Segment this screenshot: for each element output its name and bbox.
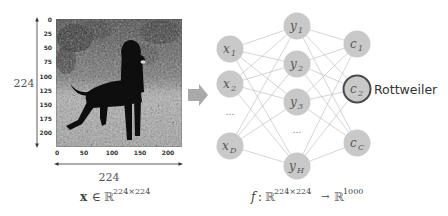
y-tick: 200: [39, 129, 52, 136]
y-axis-ticks: 0 25 50 75 100 125 150 175 200: [39, 16, 52, 136]
width-dimension-arrow: [54, 162, 183, 166]
codomain-dims: 1000: [343, 187, 363, 196]
maps-to-arrow: →: [321, 191, 330, 202]
svg-text:1: 1: [358, 44, 363, 53]
svg-text:D: D: [229, 146, 237, 155]
y-tick: 150: [39, 101, 52, 108]
svg-text:y: y: [289, 19, 297, 33]
x-tick: 0: [55, 149, 59, 156]
input-ellipsis: …: [226, 107, 235, 117]
input-variable: x: [80, 190, 88, 204]
svg-text:x: x: [223, 42, 230, 56]
output-node-cC: c C: [344, 130, 371, 157]
y-tick: 50: [44, 44, 52, 51]
hidden-node-y1: y 1: [284, 13, 311, 40]
svg-text:C: C: [358, 143, 364, 152]
svg-text:2: 2: [230, 84, 236, 93]
input-image-panel: 224 0 25 50 75 100 125 150 175 200: [14, 16, 184, 204]
input-node-x1: x 1: [217, 36, 244, 63]
x-axis-ticks: 0 50 100 150 200: [55, 149, 174, 156]
input-node-x2: x 2: [217, 71, 244, 98]
x-tick: 150: [134, 149, 147, 156]
output-node-c1: c 1: [344, 31, 371, 58]
neural-network-diagram: 224 0 25 50 75 100 125 150 175 200: [0, 0, 448, 216]
function-formula: f : ℝ 224×224 → ℝ 1000: [250, 187, 363, 204]
svg-text:c: c: [350, 82, 357, 96]
svg-text:x: x: [223, 77, 230, 91]
domain-dims: 224×224: [274, 187, 311, 196]
input-formula: x ∈ ℝ 224×224: [80, 187, 150, 204]
input-node-xD: x D: [217, 133, 244, 160]
x-tick: 100: [106, 149, 119, 156]
hidden-node-y3: y 3: [284, 89, 311, 116]
svg-text:H: H: [296, 166, 305, 175]
element-of-symbol: ∈: [92, 190, 101, 204]
hidden-node-y2: y 2: [284, 51, 311, 78]
input-layer: x 1 x 2 … x D: [217, 36, 244, 160]
y-tick: 25: [44, 30, 52, 37]
colon: :: [258, 190, 262, 204]
input-dims: 224×224: [113, 187, 150, 196]
hidden-ellipsis: …: [293, 125, 302, 135]
height-dimension-arrow: [35, 17, 39, 148]
hidden-node-yH: y H: [284, 153, 311, 180]
svg-text:c: c: [350, 37, 357, 51]
output-layer: c 1 c 2 c C Rottweiler: [344, 31, 439, 157]
svg-text:y: y: [288, 159, 296, 173]
y-tick: 100: [39, 73, 52, 80]
right-arrow-icon: [188, 84, 208, 106]
svg-text:y: y: [289, 95, 297, 109]
svg-text:c: c: [350, 136, 357, 150]
svg-text:2: 2: [357, 89, 363, 98]
svg-text:3: 3: [298, 102, 303, 111]
y-tick: 175: [39, 115, 52, 122]
svg-text:2: 2: [297, 64, 303, 73]
height-label: 224: [14, 77, 35, 90]
y-tick: 0: [48, 16, 52, 23]
predicted-class-label: Rottweiler: [374, 82, 438, 97]
svg-text:y: y: [289, 57, 297, 71]
function-symbol: f: [250, 190, 258, 204]
svg-text:1: 1: [298, 26, 303, 35]
x-tick: 200: [162, 149, 175, 156]
rottweiler-photo: [56, 19, 182, 147]
svg-text:1: 1: [231, 49, 236, 58]
y-tick: 125: [39, 87, 52, 94]
svg-text:x: x: [222, 139, 229, 153]
x-tick: 50: [80, 149, 88, 156]
width-label: 224: [99, 171, 120, 184]
output-node-c2-highlighted: c 2: [344, 76, 371, 103]
y-tick: 75: [44, 58, 52, 65]
